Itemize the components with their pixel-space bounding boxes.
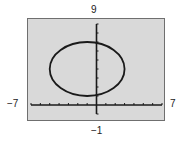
calculator-graph-screen (0, 0, 183, 141)
